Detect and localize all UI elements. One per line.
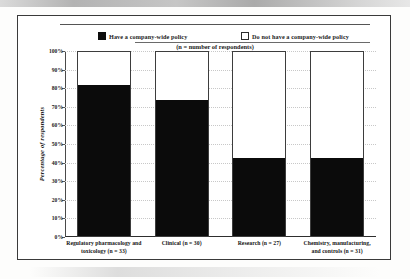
bar-segment-no-policy[interactable] [155,51,209,237]
bar-segment-no-policy[interactable] [310,51,364,237]
hollow-square-icon [241,32,249,40]
legend-top-rule [60,24,370,25]
legend-item-no-policy: Do not have a company-wide policy [241,32,349,40]
bar-segment-have-policy[interactable] [311,158,363,236]
filled-square-icon [98,32,106,40]
legend-item-no-policy-label: Do not have a company-wide policy [252,33,349,40]
y-axis-tick-label: 40% [35,160,63,166]
y-axis-tick-label: 60% [35,122,63,128]
legend-item-have-policy: Have a company-wide policy [98,32,187,40]
plot-area-wrapper: 100%90%80%70%60%50%40%30%20%10%0% Regula… [65,51,376,237]
y-axis-tick-label: 20% [35,197,63,203]
y-axis-tick-label: 90% [35,67,63,73]
scan-artifact-top-band [0,0,410,7]
bar-group[interactable] [155,51,209,237]
y-axis-tick-label: 100% [35,48,63,54]
bar-group[interactable] [310,51,364,237]
y-axis-tick-label: 30% [35,178,63,184]
legend-note: (n = number of respondents) [60,43,370,50]
chart-legend: Have a company-wide policy Do not have a… [60,24,370,54]
x-axis-tick-label: Research (n = 27) [221,240,299,248]
x-axis-tick-label: Regulatory pharmacology andtoxicology (n… [65,240,143,255]
y-axis-tick-label: 70% [35,104,63,110]
legend-item-have-policy-label: Have a company-wide policy [109,33,187,40]
y-axis-tick-label: 80% [35,85,63,91]
bar-group[interactable] [232,51,286,237]
bar-segment-no-policy[interactable] [232,51,286,237]
y-axis-tick-label: 0% [35,234,63,240]
bar-segment-no-policy[interactable] [77,51,131,237]
x-axis-tick-label: Clinical (n = 30) [143,240,221,248]
bar-segment-have-policy[interactable] [156,100,208,236]
bar-segment-have-policy[interactable] [233,158,285,236]
chart-frame: Have a company-wide policy Do not have a… [17,15,391,260]
y-axis-tick-label: 10% [35,215,63,221]
scan-artifact-bottom-smudge [30,267,380,277]
y-axis-tick-label: 50% [35,141,63,147]
bar-group[interactable] [77,51,131,237]
x-axis-tick-label: Chemistry, manufacturing,and controls (n… [298,240,376,255]
bar-segment-have-policy[interactable] [78,85,130,236]
